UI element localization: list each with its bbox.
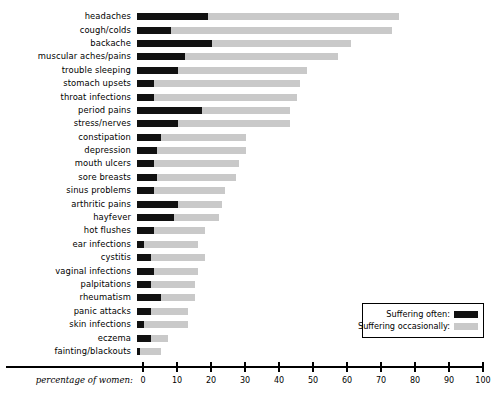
x-axis-tick	[482, 362, 483, 372]
stacked-bar	[137, 13, 490, 20]
category-label: headaches	[0, 12, 137, 21]
chart-row: trouble sleeping	[0, 64, 490, 77]
bar-segment-occasionally	[178, 67, 307, 74]
stacked-bar	[137, 147, 490, 154]
bar-segment-often	[137, 335, 151, 342]
bar-segment-occasionally	[174, 214, 218, 221]
category-label: cystitis	[0, 253, 137, 262]
category-label: ear infections	[0, 240, 137, 249]
category-label: constipation	[0, 133, 137, 142]
category-label: arthritic pains	[0, 200, 137, 209]
legend-item-occasionally: Suffering occasionally:	[368, 320, 478, 332]
category-label: rheumatism	[0, 293, 137, 302]
bar-segment-occasionally	[140, 348, 160, 355]
x-axis-tick-label: 10	[172, 376, 182, 385]
bar-segment-often	[137, 67, 178, 74]
category-label: vaginal infections	[0, 267, 137, 276]
bar-segment-often	[137, 241, 144, 248]
chart-row: sinus problems	[0, 184, 490, 197]
x-axis-tick	[176, 362, 177, 372]
bar-segment-occasionally	[154, 94, 297, 101]
chart-row: stress/nerves	[0, 117, 490, 130]
bar-segment-often	[137, 268, 154, 275]
chart-row: cough/colds	[0, 23, 490, 36]
stacked-bar	[137, 67, 490, 74]
x-axis-tick-label: 30	[240, 376, 250, 385]
chart-row: muscular aches/pains	[0, 50, 490, 63]
category-label: throat infections	[0, 93, 137, 102]
bar-segment-often	[137, 308, 151, 315]
chart-row: sore breasts	[0, 171, 490, 184]
stacked-bar	[137, 27, 490, 34]
category-label: muscular aches/pains	[0, 52, 137, 61]
stacked-bar	[137, 174, 490, 181]
bar-segment-often	[137, 281, 151, 288]
bar-segment-occasionally	[144, 321, 188, 328]
category-label: skin infections	[0, 320, 137, 329]
category-label: panic attacks	[0, 307, 137, 316]
bar-segment-often	[137, 94, 154, 101]
chart-row: stomach upsets	[0, 77, 490, 90]
category-label: mouth ulcers	[0, 159, 137, 168]
x-axis-tick	[312, 362, 313, 372]
legend-swatch-occasionally	[454, 323, 478, 330]
bar-segment-often	[137, 201, 178, 208]
chart-row: backache	[0, 37, 490, 50]
bar-segment-often	[137, 254, 151, 261]
stacked-bar	[137, 281, 490, 288]
bar-segment-often	[137, 160, 154, 167]
legend-swatch-often	[454, 311, 478, 318]
stacked-bar	[137, 268, 490, 275]
bar-segment-often	[137, 147, 157, 154]
bar-segment-occasionally	[171, 27, 392, 34]
category-label: stomach upsets	[0, 79, 137, 88]
bar-segment-occasionally	[212, 40, 351, 47]
chart-row: constipation	[0, 131, 490, 144]
chart-row: hot flushes	[0, 224, 490, 237]
chart-row: arthritic pains	[0, 197, 490, 210]
legend-item-often: Suffering often:	[368, 308, 478, 320]
bar-segment-often	[137, 321, 144, 328]
category-label: depression	[0, 146, 137, 155]
chart-row: fainting/blackouts	[0, 345, 490, 358]
chart-row: headaches	[0, 10, 490, 23]
stacked-bar	[137, 94, 490, 101]
category-label: palpitations	[0, 280, 137, 289]
x-axis-tick	[142, 362, 143, 372]
category-label: trouble sleeping	[0, 66, 137, 75]
stacked-bar	[137, 254, 490, 261]
bar-segment-often	[137, 214, 174, 221]
bar-segment-occasionally	[151, 308, 188, 315]
bar-segment-often	[137, 294, 161, 301]
category-label: cough/colds	[0, 26, 137, 35]
chart-row: cystitis	[0, 251, 490, 264]
bar-segment-often	[137, 174, 157, 181]
chart-row: depression	[0, 144, 490, 157]
chart-row: mouth ulcers	[0, 157, 490, 170]
x-axis: 0102030405060708090100 percentage of wom…	[0, 366, 490, 400]
x-axis-tick-label: 0	[140, 376, 145, 385]
bar-segment-occasionally	[161, 134, 246, 141]
bar-segment-often	[137, 134, 161, 141]
x-axis-tick	[414, 362, 415, 372]
bar-segment-occasionally	[151, 254, 205, 261]
category-label: backache	[0, 39, 137, 48]
x-axis-tick	[380, 362, 381, 372]
bar-segment-occasionally	[154, 187, 225, 194]
x-axis-tick-label: 70	[376, 376, 386, 385]
bar-segment-often	[137, 227, 154, 234]
bar-segment-occasionally	[144, 241, 198, 248]
chart-row: vaginal infections	[0, 264, 490, 277]
bar-segment-occasionally	[154, 160, 239, 167]
x-axis-tick-label: 60	[342, 376, 352, 385]
bar-segment-often	[137, 27, 171, 34]
x-axis-tick-label: 100	[475, 376, 490, 385]
bar-segment-occasionally	[151, 281, 195, 288]
bar-segment-occasionally	[157, 174, 235, 181]
bar-segment-often	[137, 53, 185, 60]
category-label: sinus problems	[0, 186, 137, 195]
x-axis-tick-label: 50	[308, 376, 318, 385]
bar-segment-occasionally	[178, 201, 222, 208]
bar-segment-occasionally	[154, 268, 198, 275]
